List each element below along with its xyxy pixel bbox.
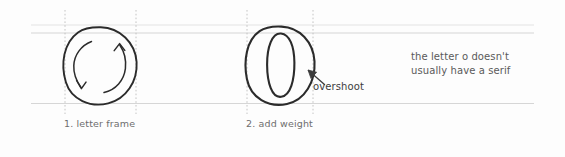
step-2-caption: 2. add weight [246, 118, 313, 129]
step-1-letter-frame-drawing [63, 27, 136, 104]
letter-o-inner-counter [267, 33, 294, 96]
diagram-svg [0, 0, 565, 157]
rotation-arrow-right-arc [104, 45, 126, 93]
figure-canvas: 1. letter frame 2. add weight overshoot … [0, 0, 565, 157]
letter-o-outer-contour [246, 26, 315, 104]
step-2-letter-o-drawing [246, 26, 315, 104]
serif-note-line-2: usually have a serif [411, 64, 510, 78]
serif-note-line-1: the letter o doesn't [411, 50, 509, 64]
step-1-caption: 1. letter frame [64, 118, 135, 129]
overshoot-annotation-label: overshoot [313, 81, 364, 92]
rotation-arrow-left-head [77, 80, 86, 88]
rotation-arrow-right-head [114, 44, 125, 51]
